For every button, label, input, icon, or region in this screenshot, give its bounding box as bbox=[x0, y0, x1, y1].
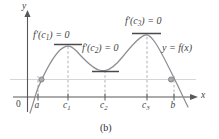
annotation-c3-close: ) = 0 bbox=[141, 15, 161, 26]
annotation-c2-open: (c bbox=[87, 42, 95, 53]
annotation-c2-close: ) = 0 bbox=[98, 42, 118, 53]
figure-container: y x 0 a c1 c2 c3 b f′(c1) = 0 f′(c2) = 0… bbox=[0, 0, 219, 139]
curve-equation-label: y = f(x) bbox=[162, 43, 192, 53]
annotation-c3-open: (c bbox=[130, 15, 138, 26]
graph-canvas bbox=[0, 0, 219, 139]
x-axis-arrow bbox=[190, 94, 198, 100]
annotation-c1-close: ) = 0 bbox=[49, 29, 69, 40]
tick-label-b-text: b bbox=[171, 100, 176, 110]
tick-label-c2: c2 bbox=[100, 101, 108, 112]
tick-label-c1-sub: 1 bbox=[67, 104, 70, 111]
tick-label-c1: c1 bbox=[63, 101, 71, 112]
endpoint-dot-b bbox=[168, 77, 173, 82]
endpoint-dot-a bbox=[39, 77, 44, 82]
tick-label-c2-sub: 2 bbox=[104, 104, 107, 111]
annotation-derivative-c2: f′(c2) = 0 bbox=[82, 43, 118, 55]
tick-label-a: a bbox=[35, 101, 40, 111]
x-axis-label: x bbox=[201, 91, 205, 101]
annotation-derivative-c1: f′(c1) = 0 bbox=[33, 30, 69, 42]
tick-label-c3-sub: 3 bbox=[146, 104, 149, 111]
figure-caption: (b) bbox=[100, 123, 112, 133]
tick-label-b: b bbox=[171, 101, 176, 111]
y-axis-label: y bbox=[22, 2, 26, 12]
tick-label-c3: c3 bbox=[142, 101, 150, 112]
origin-label: 0 bbox=[16, 100, 21, 110]
tick-label-a-text: a bbox=[35, 100, 40, 110]
annotation-derivative-c3: f′(c3) = 0 bbox=[125, 16, 161, 28]
annotation-c1-open: (c bbox=[38, 29, 46, 40]
